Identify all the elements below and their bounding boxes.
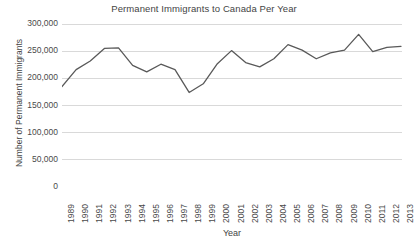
x-tick-label: 1991: [94, 204, 104, 223]
x-tick-label: 2007: [320, 204, 330, 223]
x-tick-label: 1996: [165, 204, 175, 223]
x-axis-title: Year: [60, 228, 404, 238]
series-lines: [62, 34, 401, 92]
x-tick-label: 2001: [236, 204, 246, 223]
x-tick-label: 1989: [66, 204, 76, 223]
plot-area: [62, 24, 402, 187]
x-tick-label: 2005: [292, 204, 302, 223]
series-line: [62, 34, 401, 92]
x-tick-label: 1992: [108, 204, 118, 223]
y-tick-label: 300,000: [0, 18, 58, 28]
x-tick-label: 1993: [123, 204, 133, 223]
y-tick-label: 100,000: [0, 127, 58, 137]
x-tick-label: 2000: [221, 204, 231, 223]
x-tick-label: 1990: [80, 204, 90, 223]
y-tick-label: 50,000: [0, 154, 58, 164]
x-tick-label: 2006: [306, 204, 316, 223]
x-tick-label: 2012: [391, 204, 401, 223]
x-tick-label: 1994: [137, 204, 147, 223]
x-tick-label: 2008: [334, 204, 344, 223]
x-tick-label: 1995: [151, 204, 161, 223]
x-tick-label: 1997: [179, 204, 189, 223]
x-axis-tick-labels: 1989199019911992199319941995199619971998…: [62, 189, 402, 229]
y-axis-tick-labels: 300,000250,000200,000150,000100,00050,00…: [0, 0, 58, 245]
x-tick-label: 2003: [264, 204, 274, 223]
x-tick-label: 2004: [278, 204, 288, 223]
x-tick-label: 2013: [405, 204, 415, 223]
x-tick-label: 2002: [250, 204, 260, 223]
chart-title: Permanent Immigrants to Canada Per Year: [0, 3, 408, 14]
y-tick-label: 0: [0, 181, 58, 191]
x-tick-label: 1998: [193, 204, 203, 223]
y-tick-label: 200,000: [0, 72, 58, 82]
y-tick-label: 150,000: [0, 100, 58, 110]
x-tick-label: 1999: [207, 204, 217, 223]
x-tick-label: 2011: [377, 205, 387, 223]
y-tick-label: 250,000: [0, 45, 58, 55]
x-tick-label: 2010: [363, 204, 373, 223]
plot-svg: [62, 24, 402, 187]
x-tick-label: 2009: [349, 204, 359, 223]
